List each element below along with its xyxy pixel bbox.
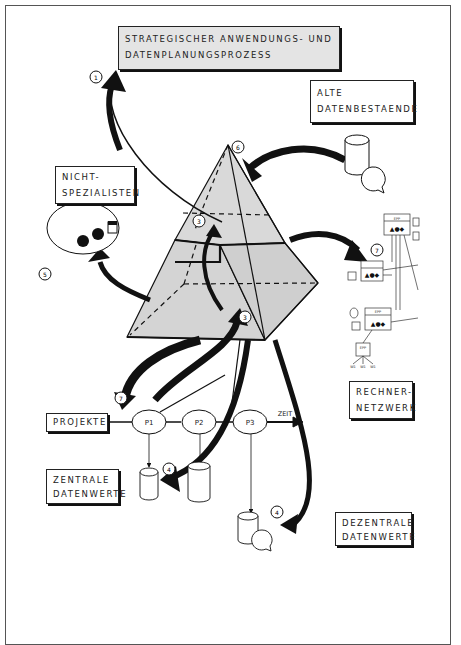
label-old-data: ALTEDATENBESTAENDE bbox=[310, 80, 414, 123]
marker-3a: 3 bbox=[193, 215, 205, 227]
marker-4b: 4 bbox=[271, 506, 283, 518]
label-central-data: ZENTRALEDATENWERTE bbox=[46, 469, 119, 504]
svg-text:EPP: EPP bbox=[360, 346, 366, 350]
marker-7: 7 bbox=[115, 392, 127, 404]
svg-text:P1: P1 bbox=[145, 419, 154, 427]
non-specialists-people-icon bbox=[47, 202, 119, 254]
svg-text:4: 4 bbox=[275, 509, 279, 516]
svg-text:EPP: EPP bbox=[375, 310, 381, 314]
old-data-database-icon bbox=[345, 135, 385, 193]
pyramid bbox=[127, 145, 318, 340]
svg-text:6: 6 bbox=[236, 144, 240, 151]
svg-text:P2: P2 bbox=[195, 419, 204, 427]
computer-network: EPP ▲●◆ ▲●◆ EPP ▲●◆ EPP W1 W1 W1 bbox=[348, 214, 419, 369]
svg-text:P3: P3 bbox=[246, 419, 255, 427]
svg-text:7: 7 bbox=[119, 395, 123, 402]
svg-text:3: 3 bbox=[197, 218, 201, 225]
label-projects: PROJEKTE bbox=[46, 413, 108, 432]
svg-text:4: 4 bbox=[167, 466, 171, 473]
svg-text:▲●◆: ▲●◆ bbox=[371, 320, 386, 327]
label-computer-network: RECHNER-NETZWERK bbox=[349, 381, 413, 419]
svg-text:▲●◆: ▲●◆ bbox=[390, 225, 405, 232]
marker-4a: 4 bbox=[163, 463, 175, 475]
svg-text:1: 1 bbox=[94, 74, 98, 81]
marker-net: 7 bbox=[371, 244, 383, 256]
label-strategic-process: STRATEGISCHER ANWENDUNGS- UNDDATENPLANUN… bbox=[118, 26, 340, 70]
svg-text:W1: W1 bbox=[360, 365, 366, 369]
svg-text:W1: W1 bbox=[370, 365, 376, 369]
label-decentral-data: DEZENTRALEDATENWERTE bbox=[335, 512, 412, 546]
marker-1: 1 bbox=[90, 71, 102, 83]
svg-text:7: 7 bbox=[375, 247, 379, 254]
svg-text:W1: W1 bbox=[350, 365, 356, 369]
svg-text:5: 5 bbox=[43, 271, 47, 278]
marker-5: 5 bbox=[39, 268, 51, 280]
svg-text:3: 3 bbox=[243, 314, 247, 321]
marker-6: 6 bbox=[232, 141, 244, 153]
marker-3b: 3 bbox=[239, 311, 251, 323]
svg-text:▲●◆: ▲●◆ bbox=[365, 271, 380, 278]
decentral-database-icon bbox=[238, 512, 272, 551]
svg-text:ZEIT: ZEIT bbox=[278, 410, 292, 418]
svg-text:EPP: EPP bbox=[394, 217, 400, 221]
label-non-specialists: NICHT-SPEZIALISTEN bbox=[55, 166, 135, 204]
